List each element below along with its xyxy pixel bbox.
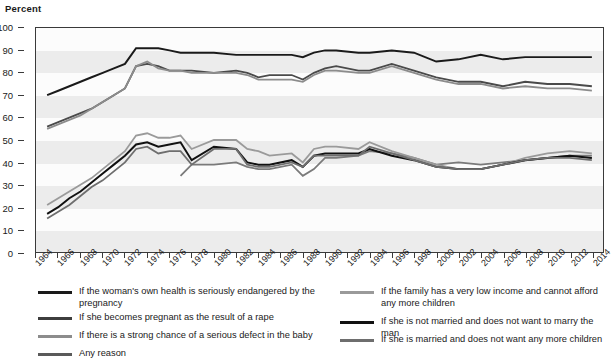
y-tick-mark [18, 230, 24, 231]
legend-swatch [38, 335, 72, 338]
series-lines [36, 28, 603, 252]
y-tick-label: 60 [2, 112, 13, 123]
legend-entry[interactable]: If the family has a very low income and … [340, 286, 613, 309]
y-tick-mark [18, 72, 24, 73]
y-tick-label: 80 [2, 67, 13, 78]
series-line-2 [47, 62, 592, 129]
series-line-4 [47, 133, 592, 205]
legend-swatch [38, 291, 72, 294]
chart-root: Percent 0102030405060708090100 196419661… [0, 0, 613, 363]
y-tick-mark [18, 27, 24, 28]
chart-legend: If the woman's own health is seriously e… [0, 284, 613, 363]
y-tick-label: 70 [2, 89, 13, 100]
legend-swatch [340, 339, 374, 342]
series-line-5 [47, 142, 592, 214]
y-tick-mark [18, 50, 24, 51]
legend-label: If she is married and does not want any … [381, 334, 602, 346]
legend-label: If the woman's own health is seriously e… [79, 286, 317, 309]
y-tick-label: 10 [2, 225, 13, 236]
legend-swatch [340, 291, 374, 294]
legend-label: If she becomes pregnant as the result of… [79, 312, 274, 324]
series-line-6 [47, 147, 592, 219]
legend-swatch [38, 353, 72, 356]
legend-entry[interactable]: Any reason [38, 348, 126, 360]
y-tick-label: 50 [2, 135, 13, 146]
y-axis: 0102030405060708090100 [0, 0, 35, 280]
legend-swatch [340, 321, 374, 324]
y-tick-label: 0 [8, 248, 13, 259]
y-tick-mark [18, 253, 24, 254]
y-tick-label: 40 [2, 157, 13, 168]
y-tick-label: 90 [2, 44, 13, 55]
legend-entry[interactable]: If she is married and does not want any … [340, 334, 602, 346]
legend-label: If there is a strong chance of a serious… [79, 330, 313, 342]
legend-entry[interactable]: If the woman's own health is seriously e… [38, 286, 317, 309]
y-tick-label: 20 [2, 202, 13, 213]
y-tick-label: 30 [2, 180, 13, 191]
y-tick-label: 100 [0, 22, 13, 33]
y-tick-mark [18, 163, 24, 164]
plot-area [35, 27, 604, 253]
legend-label: If the family has a very low income and … [381, 286, 613, 309]
legend-column-right: If the family has a very low income and … [330, 284, 613, 363]
legend-entry[interactable]: If she becomes pregnant as the result of… [38, 312, 274, 324]
legend-label: Any reason [79, 348, 126, 360]
y-tick-mark [18, 140, 24, 141]
y-tick-mark [18, 95, 24, 96]
legend-swatch [38, 317, 72, 320]
y-tick-mark [18, 117, 24, 118]
legend-column-left: If the woman's own health is seriously e… [0, 284, 330, 363]
y-tick-mark [18, 208, 24, 209]
legend-entry[interactable]: If there is a strong chance of a serious… [38, 330, 313, 342]
y-tick-mark [18, 185, 24, 186]
